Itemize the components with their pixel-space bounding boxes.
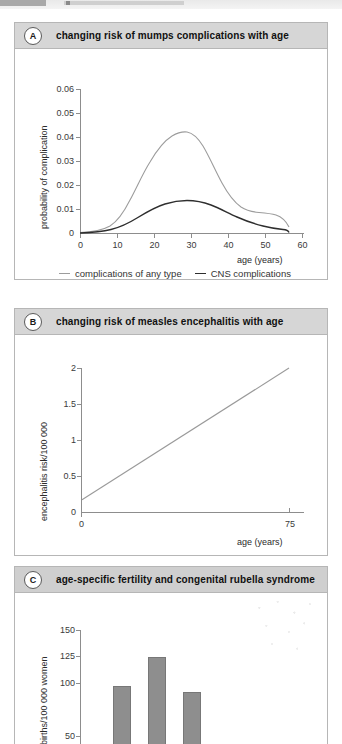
bar-2 [148, 657, 166, 744]
panel-c-letter-badge: C [24, 571, 42, 589]
panel-a-title: changing risk of mumps complications wit… [56, 30, 289, 41]
panel-c-header: C age-specific fertility and congenital … [15, 567, 327, 593]
panel-c-ytick-mark-100 [76, 683, 80, 684]
scan-top-strip [0, 0, 342, 9]
panel-a-curve-complications-any-type [80, 132, 289, 233]
panel-b-header: B changing risk of measles encephalitis … [15, 309, 327, 335]
panel-b-body: encephalitis risk/100 000 2 1.5 1 0.5 0 … [15, 335, 327, 557]
panel-a: A changing risk of mumps complications w… [14, 22, 328, 280]
panel-b-plot [15, 335, 329, 557]
panel-c-y-axis-line [80, 630, 81, 744]
panel-a-plot [15, 49, 329, 281]
panel-c-ytick-125: 125 [49, 651, 75, 661]
scan-top-light-mark [64, 1, 184, 5]
legend-item-cns: CNS complications [195, 268, 291, 279]
figure-page: A changing risk of mumps complications w… [0, 0, 342, 744]
scan-top-dot [66, 1, 70, 5]
legend-label-cns: CNS complications [211, 268, 291, 279]
panel-c: C age-specific fertility and congenital … [14, 566, 328, 744]
panel-c-title: age-specific fertility and congenital ru… [56, 574, 315, 585]
scan-top-dark-block [0, 0, 46, 6]
panel-b-line-encephalitis-risk [82, 368, 289, 500]
legend-item-any-type: complications of any type [59, 268, 182, 279]
panel-c-ytick-50: 50 [49, 731, 75, 741]
bar-3 [183, 692, 201, 744]
panel-b: B changing risk of measles encephalitis … [14, 308, 328, 556]
panel-a-legend: complications of any type CNS complicati… [59, 268, 291, 279]
panel-c-ytick-150: 150 [49, 625, 75, 635]
panel-c-ytick-mark-125 [76, 656, 80, 657]
legend-line-icon-cns [195, 273, 206, 275]
panel-c-body: births/100 000 women 150 125 100 50 [15, 593, 327, 744]
bar-1 [113, 686, 131, 744]
scan-speckle-artifact [251, 597, 321, 657]
legend-label-any-type: complications of any type [75, 268, 182, 279]
panel-b-letter-badge: B [24, 313, 42, 331]
panel-c-ytick-100: 100 [49, 678, 75, 688]
panel-a-letter-badge: A [24, 27, 42, 45]
panel-b-title: changing risk of measles encephalitis wi… [56, 316, 283, 327]
panel-a-curve-cns-complications [80, 201, 289, 234]
panel-c-ytick-mark-150 [76, 630, 80, 631]
panel-a-body: probability of complication 0.06 0.05 0.… [15, 49, 327, 281]
legend-line-icon-any-type [59, 273, 70, 275]
panel-c-y-axis-title: births/100 000 women [39, 656, 49, 744]
panel-c-ytick-mark-50 [76, 736, 80, 737]
panel-a-header: A changing risk of mumps complications w… [15, 23, 327, 49]
